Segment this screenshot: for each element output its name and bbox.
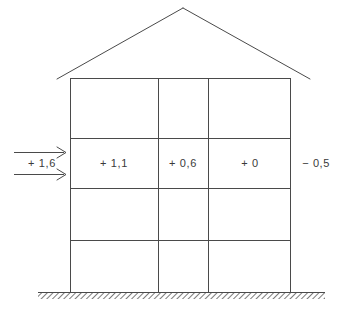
roof-left-slope <box>57 8 183 79</box>
cell-value-bay-1: + 1,1 <box>100 157 128 169</box>
ground-hatch-band <box>38 293 325 299</box>
cell-value-bay-3: + 0 <box>241 157 258 169</box>
windward-load-label: + 1,6 <box>28 157 56 169</box>
building-pressure-diagram: + 1,6 + 1,1 + 0,6 + 0 − 0,5 <box>0 0 344 316</box>
roof-group <box>57 8 310 79</box>
wall-grid-group <box>70 78 291 292</box>
diagram-canvas: + 1,6 + 1,1 + 0,6 + 0 − 0,5 <box>0 0 344 316</box>
value-labels-group: + 1,6 + 1,1 + 0,6 + 0 − 0,5 <box>28 157 330 169</box>
ground-group <box>38 293 325 300</box>
cell-value-bay-2: + 0,6 <box>169 157 197 169</box>
leeward-value-label: − 0,5 <box>302 157 330 169</box>
roof-right-slope <box>183 8 310 79</box>
